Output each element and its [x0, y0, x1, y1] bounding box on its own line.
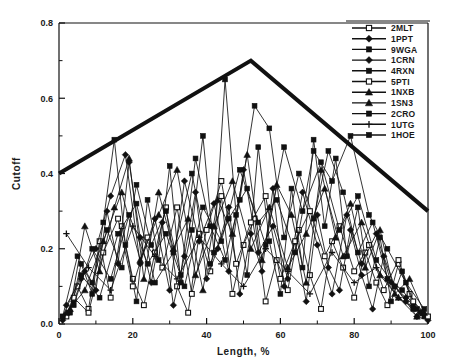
- data-point-marker: [127, 212, 132, 217]
- data-point-marker: [189, 171, 194, 176]
- legend-label: 4RXN: [391, 66, 414, 76]
- data-point-marker: [403, 280, 408, 285]
- data-point-marker: [348, 133, 353, 138]
- data-point-marker: [256, 220, 261, 225]
- data-point-marker: [374, 258, 379, 263]
- data-point-marker: [108, 295, 113, 300]
- data-point-marker: [422, 307, 427, 312]
- data-point-marker: [134, 182, 139, 187]
- data-point-marker: [204, 228, 209, 233]
- data-point-marker: [392, 284, 397, 289]
- data-point-marker: [366, 47, 371, 52]
- x-tick-label: 40: [202, 330, 212, 340]
- data-point-marker: [366, 68, 371, 73]
- data-point-marker: [366, 79, 371, 84]
- x-tick-label: 100: [420, 330, 435, 340]
- legend-label: 5PTI: [391, 77, 410, 87]
- data-point-marker: [234, 261, 239, 266]
- data-point-marker: [119, 265, 124, 270]
- data-point-marker: [308, 209, 313, 214]
- data-point-marker: [108, 276, 113, 281]
- data-point-marker: [86, 310, 91, 315]
- data-point-marker: [252, 103, 257, 108]
- data-point-marker: [248, 220, 253, 225]
- data-point-marker: [367, 284, 372, 289]
- data-point-marker: [141, 303, 146, 308]
- data-point-marker: [389, 299, 394, 304]
- data-point-marker: [167, 164, 172, 169]
- data-point-marker: [130, 284, 135, 289]
- data-point-marker: [326, 149, 331, 154]
- data-point-marker: [285, 288, 290, 293]
- data-point-marker: [352, 295, 357, 300]
- data-point-marker: [116, 231, 121, 236]
- data-point-marker: [282, 145, 287, 150]
- data-point-marker: [182, 284, 187, 289]
- data-point-marker: [219, 239, 224, 244]
- data-point-marker: [219, 179, 224, 184]
- data-point-marker: [193, 156, 198, 161]
- legend-label: 1SN3: [391, 98, 413, 108]
- x-tick-label: 0: [56, 330, 61, 340]
- data-point-marker: [201, 205, 206, 210]
- data-point-marker: [60, 314, 65, 319]
- x-tick-label: 80: [349, 330, 359, 340]
- data-point-marker: [296, 171, 301, 176]
- data-point-marker: [256, 145, 261, 150]
- data-point-marker: [267, 126, 272, 131]
- data-point-marker: [201, 133, 206, 138]
- legend-label: 9WGA: [391, 45, 417, 55]
- data-point-marker: [90, 280, 95, 285]
- data-point-marker: [411, 299, 416, 304]
- data-point-marker: [330, 179, 335, 184]
- y-tick-label: 0.2: [40, 244, 53, 254]
- data-point-marker: [230, 292, 235, 297]
- legend-label: 2CRO: [391, 109, 416, 119]
- data-point-marker: [219, 194, 224, 199]
- data-point-marker: [352, 269, 357, 274]
- data-point-marker: [208, 261, 213, 266]
- data-point-marker: [153, 280, 158, 285]
- legend-label: 1PPT: [391, 34, 414, 44]
- data-point-marker: [293, 250, 298, 255]
- y-axis-title: Cutoff: [11, 157, 22, 190]
- x-tick-label: 60: [275, 330, 285, 340]
- data-point-marker: [381, 288, 386, 293]
- data-point-marker: [186, 310, 191, 315]
- data-point-marker: [396, 258, 401, 263]
- data-point-marker: [322, 224, 327, 229]
- data-point-marker: [366, 132, 371, 137]
- data-point-marker: [337, 228, 342, 233]
- data-point-marker: [223, 258, 228, 263]
- data-point-marker: [355, 250, 360, 255]
- chart-figure: 0.00.20.40.60.8 020406080100 Cutoff Leng…: [0, 0, 455, 364]
- data-point-marker: [355, 194, 360, 199]
- data-point-marker: [145, 261, 150, 266]
- data-point-marker: [311, 137, 316, 142]
- x-axis-title: Length, %: [217, 346, 270, 357]
- y-tick-label: 0.4: [40, 169, 53, 179]
- legend-label: 1UTG: [391, 120, 415, 130]
- y-tick-label: 0.0: [40, 319, 53, 329]
- data-point-marker: [237, 167, 242, 172]
- data-point-marker: [319, 307, 324, 312]
- legend-label: 1HOE: [391, 130, 415, 140]
- data-point-marker: [71, 303, 76, 308]
- data-point-marker: [311, 149, 316, 154]
- x-tick-label: 20: [128, 330, 138, 340]
- data-point-marker: [274, 197, 279, 202]
- y-tick-label: 0.6: [40, 94, 53, 104]
- data-point-marker: [116, 216, 121, 221]
- data-point-marker: [90, 246, 95, 251]
- data-point-marker: [164, 231, 169, 236]
- legend-label: 1NXB: [391, 87, 414, 97]
- data-point-marker: [333, 156, 338, 161]
- data-point-marker: [282, 235, 287, 240]
- legend-label: 2MLT: [391, 23, 414, 33]
- data-point-marker: [263, 299, 268, 304]
- data-point-marker: [263, 194, 268, 199]
- legend-label: 1CRN: [391, 55, 415, 65]
- data-point-marker: [322, 254, 327, 259]
- data-point-marker: [189, 292, 194, 297]
- data-point-marker: [134, 201, 139, 206]
